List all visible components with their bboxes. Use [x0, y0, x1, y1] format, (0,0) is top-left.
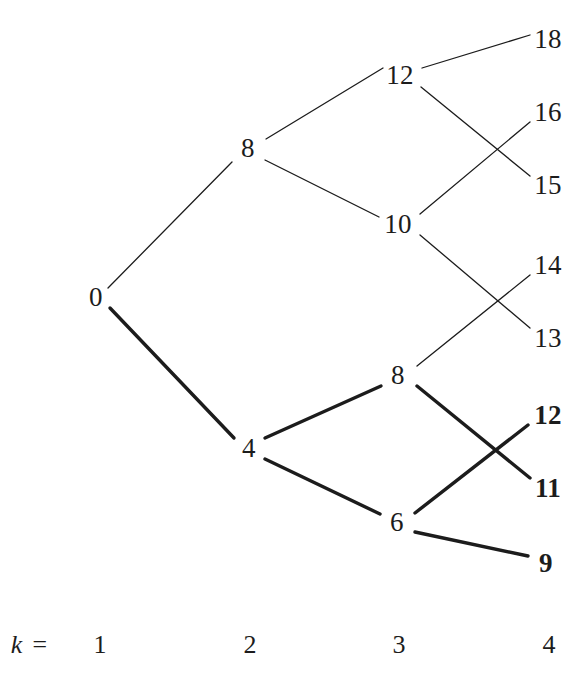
node-k4_16: 16: [534, 99, 562, 126]
edge-k2_8-to-k3_10: [265, 160, 379, 217]
axis-tick-3: 3: [393, 632, 406, 658]
edge-k2_4-to-k3_6: [265, 459, 380, 514]
edge-k3_12-to-k4_18: [422, 35, 530, 68]
edge-layer: [0, 0, 587, 687]
node-k4_9: 9: [539, 550, 553, 577]
edge-k3_6-to-k4_9: [415, 532, 528, 556]
node-k4_11: 11: [535, 475, 561, 502]
node-k4_12: 12: [534, 402, 562, 429]
node-k4_18: 18: [534, 26, 562, 53]
edge-k2_4-to-k3_8: [265, 386, 381, 438]
axis-tick-1: 1: [94, 632, 107, 658]
edge-k3_12-to-k4_15: [421, 87, 530, 176]
edge-k3_8-to-k4_11: [417, 386, 530, 478]
node-k2_8: 8: [241, 135, 255, 162]
node-k4_13: 13: [534, 325, 562, 352]
edge-n0-to-k2_4: [110, 308, 234, 438]
edge-n0-to-k2_8: [108, 162, 232, 288]
axis-key-label: k =: [11, 632, 50, 658]
lattice-diagram: 084121086181615141312119 k = 1234: [0, 0, 587, 687]
node-k4_15: 15: [534, 172, 562, 199]
node-k3_10: 10: [384, 211, 412, 238]
axis-tick-4: 4: [543, 632, 556, 658]
axis-tick-2: 2: [244, 632, 257, 658]
edge-k2_8-to-k3_12: [266, 68, 383, 139]
node-k2_4: 4: [242, 435, 256, 462]
node-k3_6: 6: [390, 509, 404, 536]
node-k4_14: 14: [534, 252, 562, 279]
edge-k3_10-to-k4_16: [420, 122, 530, 214]
node-k3_8: 8: [391, 362, 405, 389]
edge-k3_6-to-k4_12: [415, 425, 528, 513]
edge-k3_8-to-k4_14: [417, 275, 530, 366]
node-n0: 0: [89, 284, 103, 311]
node-k3_12: 12: [386, 62, 414, 89]
edge-k3_10-to-k4_13: [420, 235, 530, 328]
